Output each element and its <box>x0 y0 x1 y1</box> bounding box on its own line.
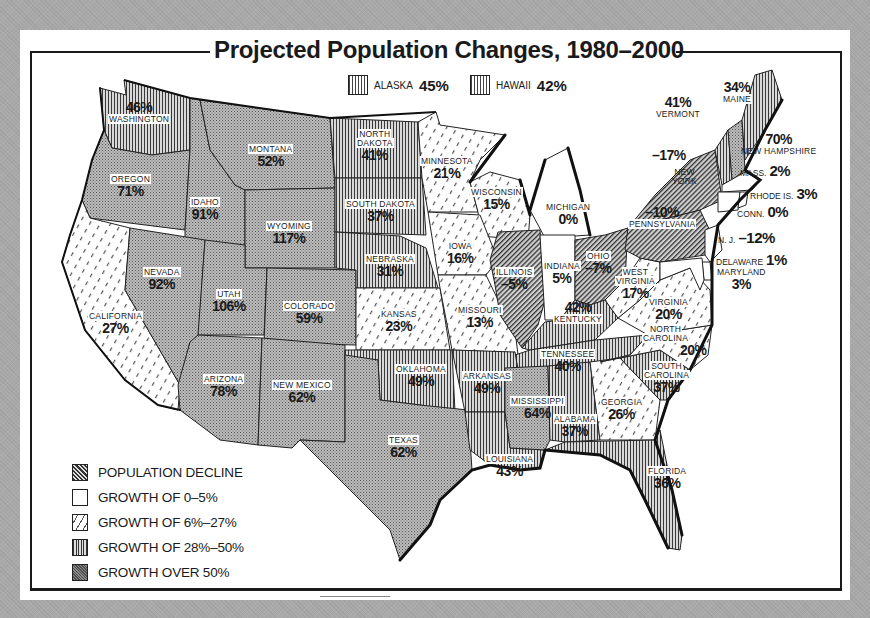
label-california: CALIFORNIA 27% <box>88 312 143 336</box>
label-north-carolina: NORTH CAROLINA <box>642 325 689 343</box>
label-maryland: MARYLAND 3% <box>717 268 766 292</box>
label-texas: TEXAS 62% <box>388 436 419 460</box>
label-wisconsin: WISCONSIN 15% <box>470 188 523 212</box>
label-kansas: KANSAS 23% <box>380 310 418 334</box>
label-wyoming: WYOMING 117% <box>266 222 312 246</box>
label-south-carolina: SOUTH CAROLINA 37% <box>643 362 690 395</box>
label-rhode-island: RHODE IS. 3% <box>750 185 817 202</box>
label-alabama: ALABAMA 37% <box>553 415 597 439</box>
label-kentucky: 42% KENTUCKY <box>553 300 603 324</box>
label-arizona: ARIZONA 78% <box>203 375 244 399</box>
label-west-virginia: WEST VIRGINIA 17% <box>615 268 656 301</box>
label-new-jersey: N. J. –12% <box>718 229 775 246</box>
legend-item-low: GROWTH OF 0–5% <box>72 485 244 510</box>
label-indiana: INDIANA 5% <box>543 262 581 286</box>
label-washington: 46% WASHINGTON <box>108 100 170 124</box>
label-michigan: MICHIGAN 0% <box>545 203 591 227</box>
label-new-hampshire: 70% NEW HAMPSHIRE <box>741 132 816 156</box>
decline-swatch <box>72 464 88 481</box>
mid-growth-swatch <box>72 514 88 531</box>
label-utah: UTAH 106% <box>212 290 246 314</box>
label-new-mexico: NEW MEXICO 62% <box>272 381 332 405</box>
label-tennessee: TENNESSEE 40% <box>540 350 595 374</box>
label-oklahoma: OKLAHOMA 49% <box>395 365 447 389</box>
label-florida: FLORIDA 36% <box>647 467 687 491</box>
high-growth-swatch <box>72 539 88 556</box>
label-georgia: GEORGIA 26% <box>600 398 643 422</box>
label-pennsylvania: –10% PENNSYLVANIA <box>628 205 696 229</box>
legend-item-over: GROWTH OVER 50% <box>72 560 244 585</box>
legend-item-high: GROWTH OF 28%–50% <box>72 535 244 560</box>
label-south-dakota: SOUTH DAKOTA 37% <box>345 200 416 224</box>
label-delaware: DELAWARE 1% <box>716 251 787 268</box>
over-growth-swatch <box>72 564 88 581</box>
label-new-york-value: –17% <box>652 148 686 163</box>
label-colorado: COLORADO 59% <box>283 302 335 326</box>
label-louisiana: LOUISIANA 43% <box>485 455 534 479</box>
label-north-dakota: NORTH DAKOTA 41% <box>356 130 394 163</box>
label-missouri: MISSOURI 13% <box>457 306 503 330</box>
label-vermont: 41% VERMONT <box>656 95 700 119</box>
label-new-york: NEW YORK <box>672 168 697 186</box>
label-illinois: ILLINOIS –5% <box>495 268 534 292</box>
label-north-carolina-value: 20% <box>680 343 707 358</box>
label-nevada: NEVADA 92% <box>143 268 181 292</box>
legend-item-mid: GROWTH OF 6%–27% <box>72 510 244 535</box>
low-growth-swatch <box>72 489 88 506</box>
label-virginia: VIRGINIA 20% <box>648 298 689 322</box>
legend-item-decline: POPULATION DECLINE <box>72 460 244 485</box>
legend: POPULATION DECLINE GROWTH OF 0–5% GROWTH… <box>72 460 244 585</box>
label-montana: MONTANA 52% <box>248 145 293 169</box>
label-maine: 34% MAINE <box>722 80 752 104</box>
label-idaho: IDAHO 91% <box>190 198 220 222</box>
label-nebraska: NEBRASKA 31% <box>365 255 415 279</box>
label-arkansas: ARKANSAS 49% <box>462 372 512 396</box>
label-massachusetts: MASS. 2% <box>740 162 790 179</box>
label-ohio: OHIO –7% <box>585 252 612 276</box>
label-connecticut: CONN. 0% <box>737 203 788 220</box>
scan-mark <box>320 596 390 597</box>
label-minnesota: MINNESOTA 21% <box>420 157 474 181</box>
label-iowa: IOWA 16% <box>447 242 474 266</box>
label-oregon: OREGON 71% <box>110 175 151 199</box>
